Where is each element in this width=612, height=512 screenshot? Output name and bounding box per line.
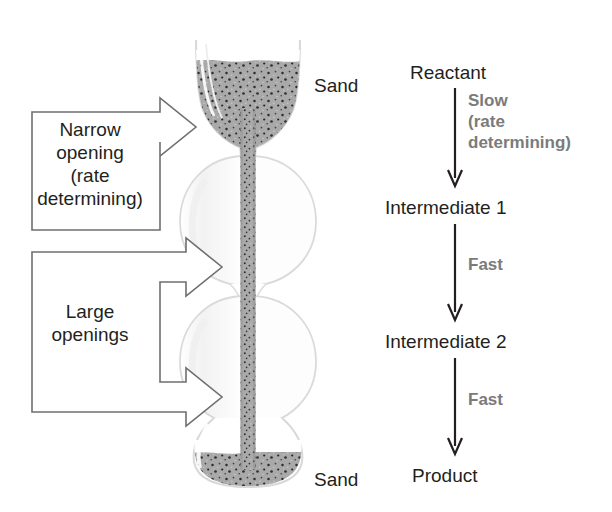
mechanism-rate-label-fast-1: Fast	[468, 254, 568, 275]
mechanism-species-reactant: Reactant	[410, 62, 486, 84]
mechanism-arrow-3	[448, 358, 462, 454]
mechanism-rate-label-fast-2: Fast	[468, 389, 568, 410]
mechanism-species-product: Product	[412, 465, 477, 487]
mechanism-species-intermediate-2: Intermediate 2	[385, 331, 506, 353]
figure-root: Narrow opening (rate determining) Large …	[0, 0, 612, 512]
mechanism-species-intermediate-1: Intermediate 1	[385, 197, 506, 219]
mechanism-arrow-2	[448, 224, 462, 320]
mechanism-arrow-1	[448, 88, 462, 186]
mechanism-rate-label-slow: Slow (rate determining)	[468, 90, 608, 153]
